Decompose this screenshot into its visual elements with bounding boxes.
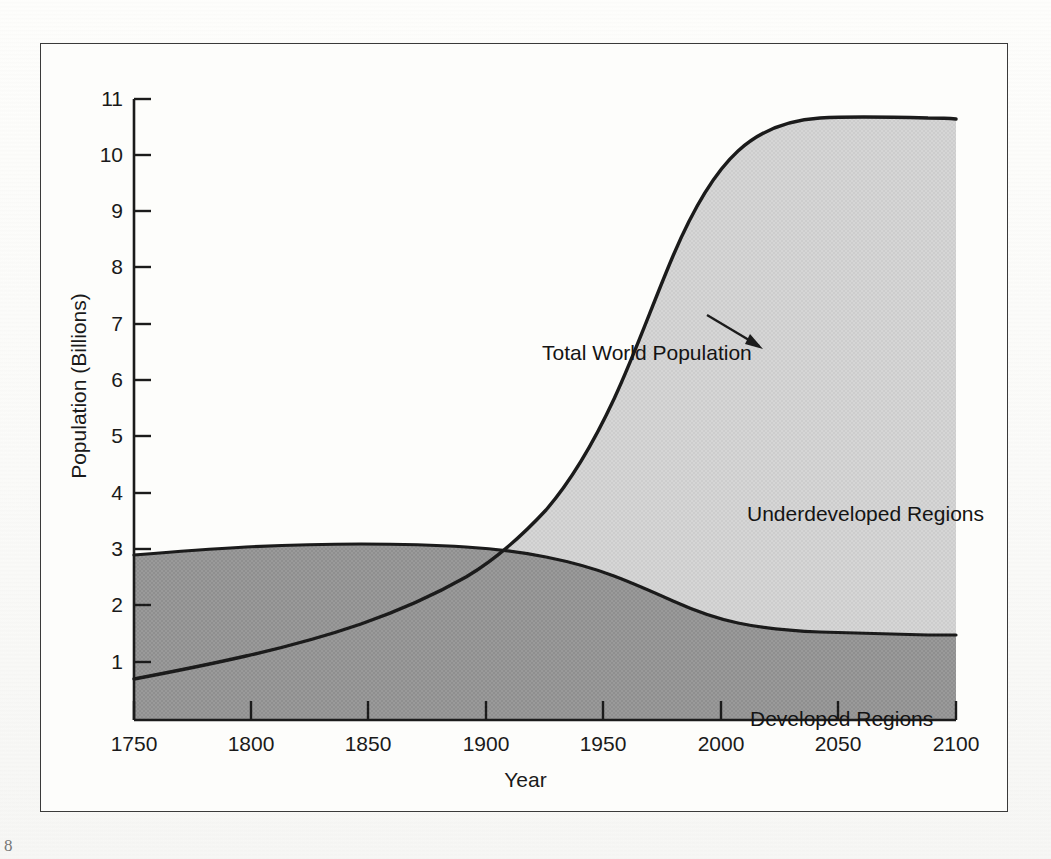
x-tick-label-1950: 1950	[558, 732, 648, 756]
x-tick-label-1750: 1750	[89, 732, 179, 756]
y-tick-label-9: 9	[79, 199, 123, 223]
y-tick-label-2: 2	[79, 593, 123, 617]
x-tick-label-1900: 1900	[441, 732, 531, 756]
x-tick-label-1800: 1800	[206, 732, 296, 756]
figure-frame: 11 10 9 8 7 6 5 4 3 2 1 1750 1800 1850 1…	[40, 43, 1008, 812]
y-tick-label-11: 11	[79, 87, 123, 111]
x-tick-label-2100: 2100	[911, 732, 1001, 756]
y-axis-title: Population (Billions)	[67, 256, 91, 516]
x-axis-title: Year	[0, 768, 1051, 792]
annotation-underdeveloped-regions: Underdeveloped Regions	[747, 502, 984, 526]
x-tick-label-2000: 2000	[676, 732, 766, 756]
population-area-chart	[41, 44, 1009, 813]
y-tick-label-1: 1	[79, 650, 123, 674]
page-number: 8	[4, 836, 13, 856]
annotation-total-world-population: Total World Population	[542, 341, 752, 365]
y-tick-label-10: 10	[79, 143, 123, 167]
annotation-developed-regions: Developed Regions	[750, 707, 933, 731]
x-tick-label-2050: 2050	[793, 732, 883, 756]
x-tick-label-1850: 1850	[323, 732, 413, 756]
y-tick-label-3: 3	[79, 537, 123, 561]
